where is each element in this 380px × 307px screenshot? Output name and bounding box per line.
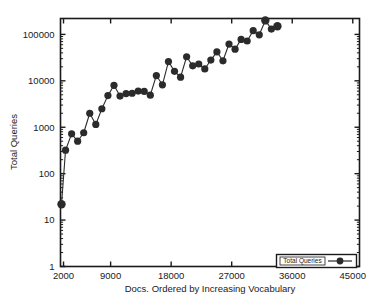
x-tick-label: 9000 — [100, 270, 121, 281]
y-tick-label: 100 — [39, 168, 55, 179]
data-point-marker — [213, 48, 220, 55]
data-point-marker — [201, 65, 208, 72]
y-axis-title: Total Queries — [8, 114, 19, 170]
data-point-marker — [165, 58, 172, 65]
data-point-marker — [231, 46, 238, 53]
data-point-marker — [110, 82, 117, 89]
data-point-marker — [86, 110, 93, 117]
data-point-marker — [104, 92, 111, 99]
data-point-marker — [62, 147, 69, 154]
data-point-marker — [159, 81, 166, 88]
x-tick-label: 27000 — [218, 270, 244, 281]
x-tick-label: 18000 — [158, 270, 184, 281]
data-point-marker — [80, 129, 87, 136]
data-point-marker — [207, 56, 214, 63]
legend-sample-marker-icon — [337, 258, 344, 265]
data-point-marker — [238, 36, 245, 43]
data-point-marker — [68, 130, 75, 137]
x-tick-label: 45000 — [340, 270, 366, 281]
data-point-marker — [153, 72, 160, 79]
data-point-marker — [250, 27, 257, 34]
y-tick-label: 1000 — [33, 122, 54, 133]
plot-area-border — [61, 19, 360, 267]
x-tick-label: 36000 — [279, 270, 305, 281]
chart-legend[interactable]: Total Queries — [277, 255, 357, 268]
data-point-marker — [57, 200, 65, 208]
total-queries-log-line-chart: 110100100010000100000 200090001800027000… — [0, 0, 380, 307]
x-axis-title: Docs. Ordered by Increasing Vocabulary — [125, 283, 296, 294]
y-tick-label: 10000 — [28, 75, 54, 86]
data-point-marker — [225, 40, 232, 47]
data-point-marker — [171, 68, 178, 75]
data-point-marker — [177, 74, 184, 81]
x-tick-label: 2000 — [53, 270, 74, 281]
data-point-marker — [92, 121, 99, 128]
legend-entry-label: Total Queries — [283, 257, 322, 265]
chart-figure: 110100100010000100000 200090001800027000… — [0, 0, 380, 307]
data-point-marker — [261, 16, 269, 24]
data-point-marker — [141, 88, 148, 95]
data-point-marker — [98, 105, 105, 112]
data-point-marker — [147, 92, 154, 99]
data-point-marker — [273, 22, 281, 30]
data-point-marker — [244, 37, 251, 44]
data-point-marker — [183, 53, 190, 60]
y-tick-label: 10 — [44, 214, 55, 225]
data-point-marker — [195, 60, 202, 67]
y-tick-label: 100000 — [23, 29, 55, 40]
data-point-marker — [219, 57, 226, 64]
data-point-marker — [74, 138, 81, 145]
data-point-marker — [256, 31, 263, 38]
